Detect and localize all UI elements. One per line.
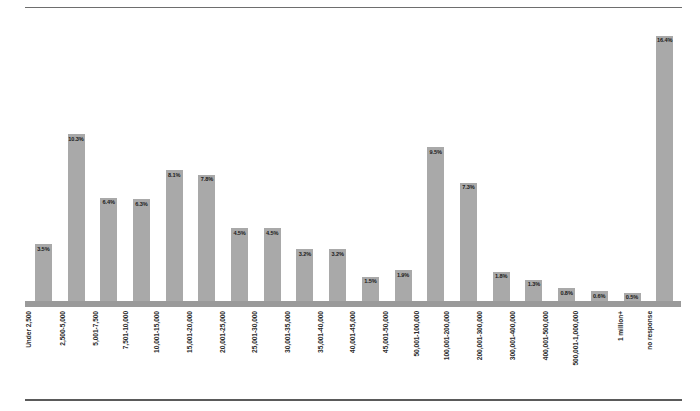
x-axis-category-label: 30,001-35,000 [284,311,291,353]
bar-value-label: 4.5% [266,228,278,236]
bar[interactable]: 1.8% [493,272,510,301]
x-label-slot: 500,001-1,000,000 [583,311,616,391]
x-axis-category-label: no response [645,311,652,350]
x-axis-category-label: 300,001-400,000 [509,311,516,360]
bar-slot: 16.4% [648,18,681,301]
x-axis-category-label: 45,001-50,000 [382,311,389,353]
bar[interactable]: 3.5% [35,244,52,301]
bar-slot: 4.5% [256,18,289,301]
x-axis-category-label: 200,001-300,000 [477,311,484,360]
bar-value-label: 3.2% [331,249,343,257]
bar[interactable]: 1.3% [525,280,542,301]
bar-slot: 6.4% [92,18,125,301]
bar-value-label: 3.2% [299,249,311,257]
bar[interactable]: 1.5% [362,277,379,301]
bar[interactable]: 0.8% [558,288,575,301]
bar[interactable]: 0.5% [624,293,641,301]
bar-chart: 3.5%10.3%6.4%6.3%8.1%7.8%4.5%4.5%3.2%3.2… [0,0,700,411]
bar[interactable]: 7.8% [198,175,215,301]
bar[interactable]: 3.2% [296,249,313,301]
bar[interactable]: 7.3% [460,183,477,301]
x-axis-category-label: 500,001-1,000,000 [572,311,579,366]
bar-value-label: 1.3% [528,280,540,288]
bar-slot: 1.3% [518,18,551,301]
bar-value-label: 1.9% [397,270,409,278]
x-axis-category-label: 400,001-500,000 [542,311,549,360]
bar-slot: 9.5% [419,18,452,301]
x-axis-category-label: 2,500-5,000 [59,311,66,346]
bar-slot: 0.8% [550,18,583,301]
bar-value-label: 7.3% [462,183,474,191]
x-axis-category-label: 10,001-15,000 [153,311,160,353]
bar-value-label: 0.8% [560,288,572,296]
bar[interactable]: 0.6% [591,291,608,301]
bar-value-label: 9.5% [430,147,442,155]
bar-slot: 3.2% [321,18,354,301]
x-axis-category-label: 1 million+ [617,311,624,341]
bar-slot: 10.3% [60,18,93,301]
x-axis-category-label: Under 2,500 [25,311,32,348]
bar-value-label: 1.8% [495,272,507,280]
bar[interactable]: 4.5% [231,228,248,301]
bar-value-label: 6.3% [135,199,147,207]
bar[interactable]: 1.9% [395,270,412,301]
x-axis-category-label: 15,001-20,000 [186,311,193,353]
bar-slot: 7.8% [191,18,224,301]
bar-value-label: 10.3% [68,134,83,142]
bar-value-label: 8.1% [168,170,180,178]
bar-slot: 0.5% [616,18,649,301]
bar-slot: 7.3% [452,18,485,301]
bar-slot: 0.6% [583,18,616,301]
bar-value-label: 0.5% [626,293,638,301]
bar-slot: 1.5% [354,18,387,301]
top-divider-rule [25,7,682,8]
plot-area: 3.5%10.3%6.4%6.3%8.1%7.8%4.5%4.5%3.2%3.2… [27,18,681,301]
bar-slot: 6.3% [125,18,158,301]
bottom-divider-rule [25,399,682,401]
bar-slot: 8.1% [158,18,191,301]
x-label-slot: 5,001-7,500 [92,311,125,391]
x-label-slot: 1 million+ [616,311,649,391]
bar[interactable]: 8.1% [166,170,183,301]
bar-value-label: 0.6% [593,291,605,299]
bar[interactable]: 3.2% [329,249,346,301]
x-axis-labels: Under 2,5002,500-5,0005,001-7,5007,501-1… [27,311,681,391]
bar-slot: 3.2% [289,18,322,301]
bar[interactable]: 10.3% [68,134,85,301]
bar-slot: 4.5% [223,18,256,301]
bar-slot: 1.9% [387,18,420,301]
bar-value-label: 4.5% [233,228,245,236]
bar-value-label: 7.8% [201,175,213,183]
bar[interactable]: 6.3% [133,199,150,301]
x-axis-category-label: 20,001-25,000 [219,311,226,353]
x-axis-category-label: 100,001-200,000 [444,311,451,360]
x-axis-category-label: 25,001-30,000 [251,311,258,353]
bar-slot: 1.8% [485,18,518,301]
bar-value-label: 3.5% [37,244,49,252]
bar-value-label: 6.4% [103,198,115,206]
bar[interactable]: 4.5% [264,228,281,301]
x-label-slot: 2,500-5,000 [60,311,93,391]
x-axis-baseline [25,301,681,307]
x-axis-category-label: 40,001-45,000 [349,311,356,353]
x-label-slot: Under 2,500 [27,311,60,391]
bar[interactable]: 9.5% [427,147,444,301]
x-axis-category-label: 50,001-100,000 [413,311,420,357]
x-axis-category-label: 35,001-40,000 [317,311,324,353]
x-label-slot: no response [648,311,681,391]
bar-value-label: 1.5% [364,277,376,285]
bar[interactable]: 16.4% [656,36,673,301]
bar[interactable]: 6.4% [100,198,117,301]
bar-slot: 3.5% [27,18,60,301]
x-axis-category-label: 5,001-7,500 [91,311,98,346]
bar-value-label: 16.4% [657,36,672,44]
x-axis-category-label: 7,501-10,000 [122,311,129,349]
